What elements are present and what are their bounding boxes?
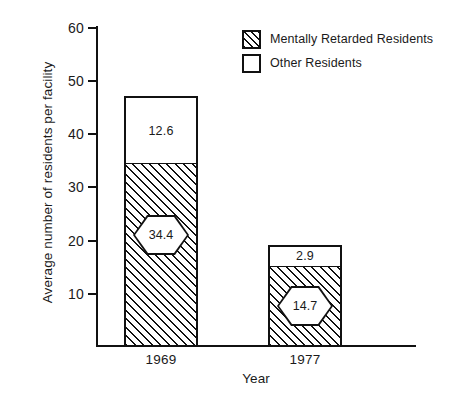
y-tick-label-20: 20 [40, 233, 84, 249]
legend: Mentally Retarded Residents Other Reside… [242, 28, 433, 76]
bar-1969-label-mentally-retarded-callout: 34.4 [133, 215, 189, 255]
y-tick-label-40: 40 [40, 126, 84, 142]
y-tick-label-50: 50 [40, 73, 84, 89]
legend-item-mentally-retarded: Mentally Retarded Residents [242, 28, 433, 50]
x-tick-label-1977: 1977 [260, 352, 350, 367]
x-axis-title: Year [96, 371, 416, 386]
y-tick-20 [88, 240, 97, 242]
legend-label-mentally-retarded: Mentally Retarded Residents [270, 32, 433, 46]
y-tick-30 [88, 186, 97, 188]
bar-1977-label-other: 2.9 [265, 249, 345, 263]
y-tick-60 [88, 27, 97, 29]
bar-1977-label-mentally-retarded-callout: 14.7 [277, 286, 333, 326]
bar-1969-segment-mentally-retarded [124, 163, 198, 347]
y-tick-40 [88, 133, 97, 135]
bar-1969-label-other: 12.6 [121, 124, 201, 138]
bar-chart: Average number of residents per facility… [0, 0, 470, 402]
hatched-swatch-icon [242, 30, 261, 49]
legend-item-other: Other Residents [242, 52, 433, 74]
y-tick-label-30: 30 [40, 179, 84, 195]
y-tick-label-60: 60 [40, 20, 84, 36]
white-swatch-icon [242, 54, 261, 73]
x-tick-label-1969: 1969 [116, 352, 206, 367]
y-tick-10 [88, 293, 97, 295]
y-tick-50 [88, 80, 97, 82]
y-tick-label-10: 10 [40, 286, 84, 302]
legend-label-other: Other Residents [270, 56, 362, 70]
